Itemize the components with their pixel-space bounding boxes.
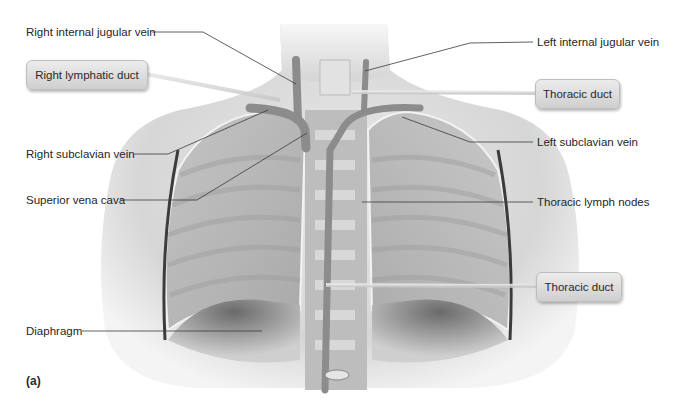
leader-right-internal-jugular-vein [152,32,296,84]
label-left-subclavian-vein: Left subclavian vein [537,135,638,149]
panel-label: (a) [26,374,41,388]
label-thoracic-lymph-nodes: Thoracic lymph nodes [537,195,650,209]
callout-right-lymphatic-duct: Right lymphatic duct [26,60,148,90]
label-right-subclavian-vein: Right subclavian vein [26,147,135,161]
leader-left-internal-jugular-vein [365,42,533,71]
label-superior-vena-cava: Superior vena cava [26,193,125,207]
label-right-internal-jugular-vein: Right internal jugular vein [26,25,156,39]
aorta-opening [325,370,349,380]
thoracic-lymphatic-anatomy-figure: Right internal jugular vein Right subcla… [0,0,677,413]
label-left-internal-jugular-vein: Left internal jugular vein [537,35,659,49]
callout-thoracic-duct-lower: Thoracic duct [536,272,622,302]
label-diaphragm: Diaphragm [26,324,82,338]
callout-thoracic-duct-upper: Thoracic duct [535,79,620,109]
trachea [320,60,350,95]
